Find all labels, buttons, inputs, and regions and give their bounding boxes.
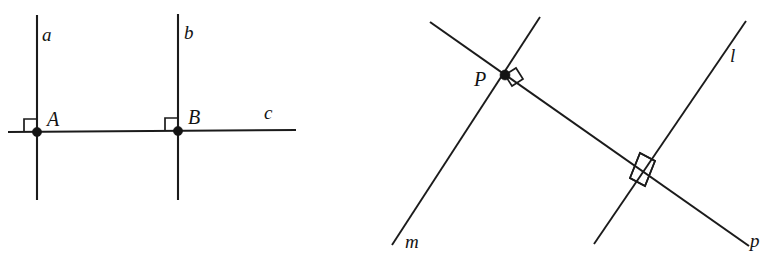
geometry-figure-container: a b c A B P l m p bbox=[0, 0, 775, 271]
point-p-dot bbox=[500, 70, 510, 80]
left-diagram-group: a b c A B bbox=[8, 14, 296, 200]
line-c-label: c bbox=[264, 102, 273, 123]
line-l-label: l bbox=[730, 45, 735, 66]
line-b-label: b bbox=[184, 22, 194, 43]
point-b-label: B bbox=[188, 106, 200, 128]
line-p-label: p bbox=[748, 230, 760, 251]
point-a-label: A bbox=[45, 108, 60, 130]
point-b-dot bbox=[173, 126, 182, 135]
right-angle-mark-q-inner bbox=[630, 153, 655, 186]
line-m bbox=[392, 17, 540, 245]
point-a-dot bbox=[32, 127, 41, 136]
point-p-label: P bbox=[473, 68, 486, 90]
line-l bbox=[594, 21, 746, 244]
line-c bbox=[8, 130, 296, 132]
right-diagram-group: P l m p bbox=[392, 17, 760, 252]
geometry-figure-svg: a b c A B P l m p bbox=[0, 0, 775, 271]
line-m-label: m bbox=[405, 231, 419, 252]
line-a-label: a bbox=[42, 24, 52, 45]
line-p bbox=[430, 22, 749, 246]
